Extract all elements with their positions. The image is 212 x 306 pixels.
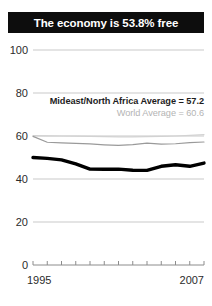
plot-canvas bbox=[0, 0, 212, 306]
series-layer bbox=[33, 135, 204, 171]
x-axis-ticks bbox=[33, 261, 204, 265]
series-line-region bbox=[33, 136, 204, 145]
series-line-country bbox=[33, 158, 204, 171]
gridlines bbox=[33, 50, 204, 265]
economic-freedom-chart: The economy is 53.8% free 100 80 60 40 2… bbox=[0, 0, 212, 306]
